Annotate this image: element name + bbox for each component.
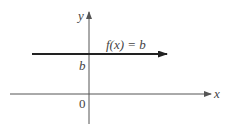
intercept-label: b — [79, 59, 86, 72]
x-axis-label: x — [214, 87, 220, 100]
graph-canvas — [0, 0, 226, 130]
y-axis-label: y — [78, 9, 84, 22]
origin-label: 0 — [79, 97, 86, 110]
function-label: f(x) = b — [106, 38, 146, 51]
